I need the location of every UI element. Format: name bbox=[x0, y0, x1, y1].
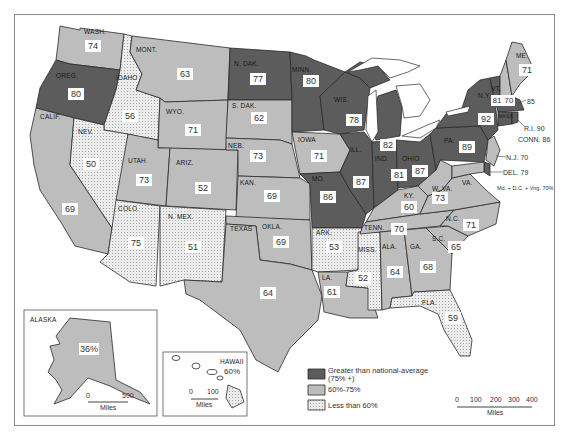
value-oreg: 80 bbox=[68, 88, 84, 100]
value-mo: 86 bbox=[320, 191, 336, 203]
label-mont: MONT. bbox=[136, 46, 157, 53]
label-minn: MINN. bbox=[292, 66, 311, 73]
value-nmex: 51 bbox=[185, 241, 201, 253]
value-okla: 69 bbox=[273, 236, 289, 248]
svg-text:64: 64 bbox=[263, 288, 273, 298]
value-ala: 64 bbox=[387, 266, 403, 278]
svg-text:80: 80 bbox=[306, 76, 316, 86]
svg-text:71: 71 bbox=[188, 125, 198, 135]
label-ill: ILL. bbox=[350, 146, 362, 153]
svg-text:74: 74 bbox=[88, 41, 98, 51]
label-okla: OKLA. bbox=[262, 223, 282, 230]
value-fla: 59 bbox=[445, 312, 461, 324]
label-ohio: OHIO bbox=[402, 155, 419, 162]
callout-nj: N.J. 70 bbox=[506, 154, 528, 161]
label-pa: PA. bbox=[444, 137, 455, 144]
svg-text:81: 81 bbox=[493, 96, 502, 105]
svg-text:71: 71 bbox=[314, 151, 324, 161]
label-nev: NEV. bbox=[78, 128, 93, 135]
value-ind: 81 bbox=[391, 169, 407, 181]
value-sc: 65 bbox=[448, 241, 464, 253]
state-colorado bbox=[166, 148, 238, 210]
value-mich: 82 bbox=[380, 139, 396, 151]
svg-text:69: 69 bbox=[65, 204, 75, 214]
svg-text:73: 73 bbox=[139, 175, 149, 185]
svg-text:64: 64 bbox=[390, 267, 400, 277]
value-minn: 80 bbox=[303, 75, 319, 87]
value-colo: 52 bbox=[195, 182, 211, 194]
value-calif: 69 bbox=[62, 203, 78, 215]
svg-text:56: 56 bbox=[125, 111, 135, 121]
svg-text:Miles: Miles bbox=[100, 404, 117, 411]
svg-text:70: 70 bbox=[505, 96, 514, 105]
label-kan: KAN. bbox=[240, 179, 256, 186]
label-ndak: N. DAK. bbox=[234, 60, 259, 67]
value-ga: 68 bbox=[420, 261, 436, 273]
callout-conn: CONN. 86 bbox=[518, 136, 550, 143]
svg-text:87: 87 bbox=[356, 177, 366, 187]
svg-text:400: 400 bbox=[526, 396, 538, 403]
label-neb: NEB. bbox=[228, 142, 244, 149]
label-me: ME. bbox=[516, 52, 528, 59]
label-wyo: WYO. bbox=[166, 108, 184, 115]
svg-text:92: 92 bbox=[481, 114, 491, 124]
label-sdak: S. DAK. bbox=[232, 102, 257, 109]
alaska-inset: ALASKA 36% 0 500 Miles bbox=[24, 310, 157, 416]
value-me: 71 bbox=[519, 64, 535, 76]
legend-dark-sublabel: (75% +) bbox=[328, 374, 355, 383]
label-idaho: IDAHO bbox=[116, 74, 138, 81]
label-ark: ARK. bbox=[316, 229, 332, 236]
label-sc: S.C. bbox=[432, 235, 445, 242]
svg-text:75: 75 bbox=[131, 238, 141, 248]
label-mo: MO. bbox=[312, 175, 325, 182]
svg-text:Miles: Miles bbox=[487, 409, 504, 416]
label-utah: UTAH bbox=[128, 157, 146, 164]
svg-text:70: 70 bbox=[394, 224, 404, 234]
value-ill: 87 bbox=[353, 176, 369, 188]
callout-del: DEL. 79 bbox=[503, 169, 528, 176]
svg-text:500: 500 bbox=[122, 392, 134, 399]
svg-text:61: 61 bbox=[327, 287, 337, 297]
value-pa: 89 bbox=[459, 141, 475, 153]
svg-text:0: 0 bbox=[455, 396, 459, 403]
svg-text:50: 50 bbox=[86, 159, 96, 169]
value-mont: 63 bbox=[177, 68, 193, 80]
label-nc: N.C. bbox=[446, 215, 460, 222]
value-nc: 71 bbox=[463, 219, 479, 231]
svg-text:0: 0 bbox=[189, 388, 193, 395]
svg-text:81: 81 bbox=[394, 170, 404, 180]
label-vt: VT. bbox=[491, 85, 501, 92]
svg-text:51: 51 bbox=[188, 242, 198, 252]
label-calif: CALIF. bbox=[40, 113, 61, 120]
value-ny: 92 bbox=[478, 113, 494, 125]
value-texas: 64 bbox=[260, 287, 276, 299]
label-ny: N.Y. bbox=[478, 92, 491, 99]
value-wyo: 71 bbox=[185, 124, 201, 136]
value-la: 61 bbox=[324, 286, 340, 298]
svg-text:60%: 60% bbox=[224, 367, 240, 376]
svg-text:100: 100 bbox=[207, 388, 219, 395]
value-ariz: 75 bbox=[128, 237, 144, 249]
label-ga: GA. bbox=[410, 243, 422, 250]
value-sdak: 62 bbox=[251, 112, 267, 124]
svg-text:86: 86 bbox=[323, 192, 333, 202]
legend-mid-label: 60%-75% bbox=[328, 385, 361, 394]
label-ind: IND. bbox=[375, 155, 389, 162]
label-ala: ALA. bbox=[382, 243, 397, 250]
label-nmex: N. MEX. bbox=[168, 213, 194, 220]
callout-mass: 85 bbox=[527, 98, 535, 105]
value-wash: 74 bbox=[85, 40, 101, 52]
svg-text:89: 89 bbox=[462, 142, 472, 152]
svg-text:52: 52 bbox=[358, 273, 368, 283]
value-miss: 52 bbox=[355, 272, 371, 284]
svg-text:71: 71 bbox=[522, 65, 532, 75]
label-wis: WIS. bbox=[334, 96, 349, 103]
value-neb: 73 bbox=[250, 150, 266, 162]
value-tenn: 70 bbox=[391, 223, 407, 235]
state-new-jersey bbox=[486, 136, 500, 166]
svg-text:65: 65 bbox=[451, 242, 461, 252]
legend: Greater than national-average (75% +) 60… bbox=[308, 366, 428, 410]
svg-text:80: 80 bbox=[71, 89, 81, 99]
svg-text:78: 78 bbox=[349, 115, 359, 125]
label-wash: WASH. bbox=[84, 28, 106, 35]
